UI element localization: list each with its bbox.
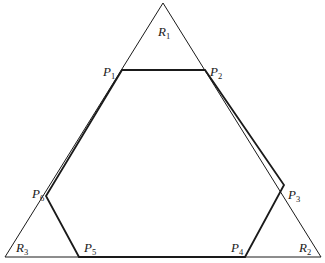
label-R2: R2 bbox=[298, 240, 311, 257]
label-R1: R1 bbox=[157, 24, 170, 41]
label-P6: P6 bbox=[31, 186, 44, 203]
label-P3: P3 bbox=[287, 187, 300, 204]
inner-hexagon bbox=[46, 70, 284, 257]
outer-triangle bbox=[5, 3, 321, 257]
label-P5: P5 bbox=[83, 240, 96, 257]
label-P2: P2 bbox=[209, 64, 222, 81]
label-R3: R3 bbox=[15, 240, 28, 257]
label-P4: P4 bbox=[230, 240, 244, 257]
label-P1: P1 bbox=[102, 64, 115, 81]
triangle-hexagon-diagram: R1 P1 P2 P6 P3 R3 P5 P4 R2 bbox=[0, 0, 325, 263]
